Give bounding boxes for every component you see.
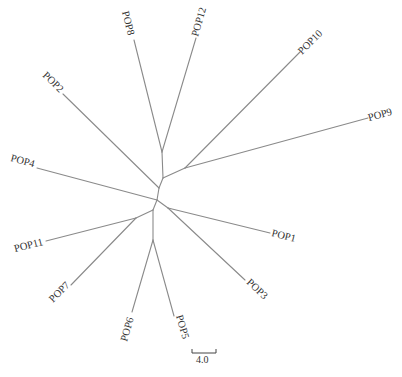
branch-POP6 — [132, 240, 153, 312]
leaf-label-POP9: POP9 — [367, 106, 394, 123]
leaf-label-POP1: POP1 — [271, 227, 297, 244]
leaf-label-POP12: POP12 — [189, 6, 208, 38]
tree-svg: POP8 POP12 POP10 POP9 POP2 POP4 POP1 POP… — [0, 0, 402, 377]
branch-POP11 — [46, 218, 136, 241]
leaf-label-POP10: POP10 — [296, 28, 325, 57]
leaf-label-POP6: POP6 — [118, 316, 135, 343]
scale-bar-line — [192, 349, 216, 353]
leaf-label-POP5: POP5 — [174, 314, 191, 341]
branch-POP1 — [168, 208, 270, 233]
branch-internal-spine-b — [157, 188, 159, 200]
terminal-branches — [37, 38, 368, 316]
leaf-label-POP4: POP4 — [9, 152, 36, 169]
branch-internal-8-12 — [162, 152, 163, 178]
branch-POP9 — [185, 118, 368, 168]
scale-bar: 4.0 — [192, 349, 216, 365]
branch-internal-spine-c — [153, 200, 157, 210]
branch-POP8 — [134, 40, 162, 152]
branch-POP12 — [162, 38, 196, 152]
branch-POP5 — [153, 240, 174, 316]
leaf-label-POP7: POP7 — [47, 279, 72, 304]
leaf-label-POP11: POP11 — [13, 236, 44, 254]
branch-internal-1-3 — [157, 200, 168, 208]
phylogenetic-tree-figure: POP8 POP12 POP10 POP9 POP2 POP4 POP1 POP… — [0, 0, 402, 377]
branch-POP3 — [168, 208, 245, 280]
leaf-labels: POP8 POP12 POP10 POP9 POP2 POP4 POP1 POP… — [9, 6, 393, 343]
branch-internal-7-11 — [136, 210, 153, 218]
leaf-label-POP2: POP2 — [41, 70, 66, 95]
branch-POP7 — [71, 218, 136, 285]
branch-POP4 — [37, 168, 157, 200]
leaf-label-POP8: POP8 — [120, 10, 137, 36]
branch-internal-spine-a — [159, 178, 163, 188]
branch-POP10 — [185, 52, 300, 168]
scale-bar-label: 4.0 — [196, 354, 209, 365]
leaf-label-POP3: POP3 — [245, 276, 270, 301]
branch-POP2 — [63, 94, 159, 188]
branch-internal-9-10 — [163, 168, 185, 178]
